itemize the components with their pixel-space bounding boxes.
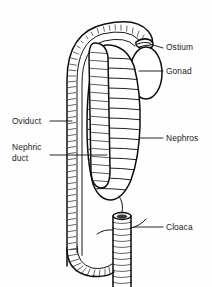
cloaca-duct-entry	[119, 196, 123, 212]
label-nephric-duct-line1: Nephric	[12, 142, 42, 152]
cloaca-ridges	[112, 222, 132, 284]
oviduct-lower-bend	[67, 248, 114, 277]
cloaca-tube	[113, 216, 131, 287]
label-gonad: Gonad	[166, 66, 192, 76]
anatomy-figure: Ostium Gonad Oviduct Nephric duct Nephro…	[0, 0, 212, 287]
label-cloaca: Cloaca	[166, 222, 193, 232]
label-ostium: Ostium	[166, 42, 193, 52]
label-nephros: Nephros	[166, 133, 198, 143]
label-nephric-duct-line2: duct	[12, 153, 29, 163]
cloaca-lumen	[117, 215, 127, 219]
label-oviduct: Oviduct	[12, 116, 42, 126]
nephric-duct-strip	[89, 43, 110, 188]
cloaca-side-branch-left	[97, 230, 113, 234]
diagram-canvas: Ostium Gonad Oviduct Nephric duct Nephro…	[0, 0, 212, 287]
